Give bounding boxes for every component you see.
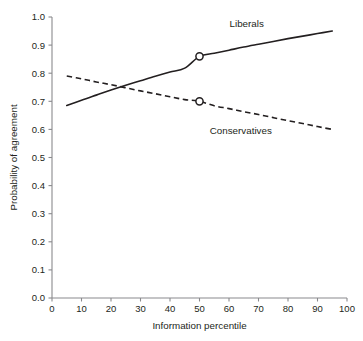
y-tick-label: 0.4 bbox=[32, 180, 45, 191]
x-tick-label: 80 bbox=[283, 303, 294, 314]
y-tick-label: 1.0 bbox=[32, 11, 45, 22]
x-tick-label: 70 bbox=[253, 303, 264, 314]
chart-canvas: 0.00.10.20.30.40.50.60.70.80.91.0 010203… bbox=[0, 0, 363, 341]
x-axis-tick-labels: 0102030405060708090100 bbox=[49, 303, 355, 314]
y-axis-title: Probability of agreement bbox=[8, 104, 19, 210]
x-tick-label: 50 bbox=[194, 303, 205, 314]
data-point-marker bbox=[196, 53, 203, 60]
x-axis-title: Information percentile bbox=[152, 320, 247, 331]
y-tick-label: 0.5 bbox=[32, 152, 45, 163]
y-tick-label: 0.7 bbox=[32, 96, 45, 107]
x-tick-label: 20 bbox=[106, 303, 117, 314]
x-tick-label: 100 bbox=[339, 303, 355, 314]
y-axis-group: 0.00.10.20.30.40.50.60.70.80.91.0 bbox=[32, 11, 52, 303]
x-tick-label: 60 bbox=[224, 303, 235, 314]
y-tick-label: 0.2 bbox=[32, 236, 45, 247]
x-axis-group: 0102030405060708090100 bbox=[49, 298, 355, 314]
data-point-marker bbox=[196, 98, 203, 105]
chart-figure: 0.00.10.20.30.40.50.60.70.80.91.0 010203… bbox=[0, 0, 363, 341]
x-tick-label: 90 bbox=[312, 303, 323, 314]
series-group bbox=[67, 31, 333, 129]
y-tick-label: 0.6 bbox=[32, 124, 45, 135]
x-tick-label: 40 bbox=[165, 303, 176, 314]
y-axis-tick-labels: 0.00.10.20.30.40.50.60.70.80.91.0 bbox=[32, 11, 45, 303]
series-label-conservatives: Conservatives bbox=[210, 125, 272, 136]
y-tick-label: 0.1 bbox=[32, 264, 45, 275]
data-point-markers bbox=[196, 53, 203, 105]
x-tick-label: 0 bbox=[49, 303, 54, 314]
y-tick-label: 0.0 bbox=[32, 292, 45, 303]
annotations-group: Liberals Conservatives bbox=[210, 18, 272, 136]
y-tick-label: 0.9 bbox=[32, 40, 45, 51]
series-line-liberals bbox=[67, 31, 333, 105]
x-tick-label: 10 bbox=[76, 303, 87, 314]
series-label-liberals: Liberals bbox=[230, 18, 264, 29]
y-tick-label: 0.8 bbox=[32, 68, 45, 79]
y-tick-label: 0.3 bbox=[32, 208, 45, 219]
x-tick-label: 30 bbox=[135, 303, 146, 314]
